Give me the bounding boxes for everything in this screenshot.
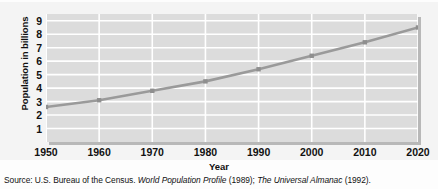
x-axis-tick-1990: 1990 <box>239 146 279 158</box>
x-axis-tick-1960: 1960 <box>79 146 119 158</box>
x-axis-tick-2010: 2010 <box>345 146 385 158</box>
chart-page: Population in billions 123456789 1950196… <box>0 0 438 189</box>
source-work-1: World Population Profile <box>138 175 227 185</box>
y-axis-tick-4: 4 <box>22 83 42 93</box>
y-axis-tick-labels: 123456789 <box>22 14 42 142</box>
population-data-markers <box>46 25 418 109</box>
x-axis-tick-labels: 19501960197019801990200020102020 <box>46 146 418 160</box>
y-axis-tick-8: 8 <box>22 29 42 39</box>
x-axis-tick-2000: 2000 <box>292 146 332 158</box>
source-work-2: The Universal Almanac <box>257 175 342 185</box>
y-axis-tick-5: 5 <box>22 70 42 80</box>
population-line-series <box>46 27 418 107</box>
source-note: Source: U.S. Bureau of the Census. World… <box>4 175 438 185</box>
y-axis-tick-6: 6 <box>22 56 42 66</box>
x-axis-tick-1970: 1970 <box>132 146 172 158</box>
vertical-gridlines <box>46 14 418 142</box>
plot-bottom-shadow <box>49 142 421 145</box>
population-line-chart <box>46 14 418 142</box>
plot-area <box>46 14 418 142</box>
x-axis-tick-1980: 1980 <box>185 146 225 158</box>
x-axis-title: Year <box>0 161 438 172</box>
y-axis-tick-9: 9 <box>22 16 42 26</box>
source-prefix: Source: U.S. Bureau of the Census. <box>4 175 135 185</box>
y-axis-tick-1: 1 <box>22 124 42 134</box>
y-axis-tick-3: 3 <box>22 97 42 107</box>
x-axis-tick-1950: 1950 <box>26 146 66 158</box>
source-work-1-year: (1989); <box>229 175 255 185</box>
source-work-2-year: (1992). <box>345 175 371 185</box>
y-axis-tick-7: 7 <box>22 43 42 53</box>
y-axis-tick-2: 2 <box>22 110 42 120</box>
plot-right-shadow <box>418 17 421 145</box>
x-axis-tick-2020: 2020 <box>398 146 438 158</box>
chart-frame: Population in billions 123456789 1950196… <box>0 2 438 160</box>
